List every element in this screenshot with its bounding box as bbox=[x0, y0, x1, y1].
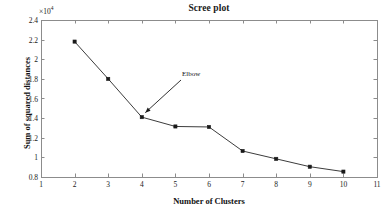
data-point-marker bbox=[107, 77, 110, 80]
scree-plot-figure: Scree plot ×104 Sum of squared distances… bbox=[0, 0, 390, 213]
data-point-marker bbox=[174, 125, 177, 128]
data-point-marker bbox=[140, 116, 143, 119]
axes-box bbox=[42, 21, 378, 178]
axis-ticks bbox=[41, 20, 378, 178]
data-point-marker bbox=[275, 157, 278, 160]
data-point-marker bbox=[73, 40, 76, 43]
data-point-markers bbox=[73, 40, 345, 173]
data-point-marker bbox=[207, 125, 210, 128]
data-point-marker bbox=[308, 165, 311, 168]
data-point-marker bbox=[241, 149, 244, 152]
elbow-annotation-arrow bbox=[145, 80, 181, 113]
elbow-annotation-label: Elbow bbox=[182, 70, 200, 78]
plot-area bbox=[0, 0, 390, 213]
data-series-line bbox=[75, 42, 344, 172]
data-point-marker bbox=[342, 170, 345, 173]
